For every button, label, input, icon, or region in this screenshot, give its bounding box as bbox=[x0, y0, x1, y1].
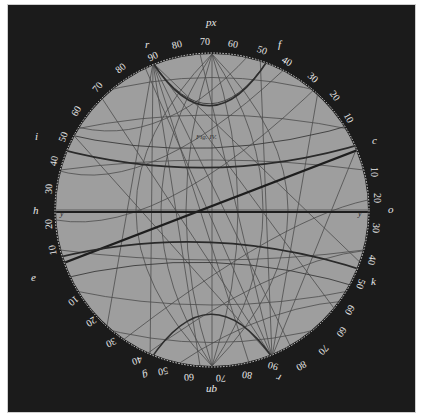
label-r-bottom: r bbox=[274, 372, 283, 385]
svg-text:60: 60 bbox=[69, 104, 84, 118]
svg-text:10: 10 bbox=[369, 167, 380, 177]
svg-text:50: 50 bbox=[157, 365, 169, 378]
svg-text:70: 70 bbox=[200, 36, 210, 47]
svg-text:70: 70 bbox=[90, 80, 105, 95]
label-qn: qn bbox=[206, 385, 218, 397]
svg-text:80: 80 bbox=[113, 61, 128, 76]
svg-text:10: 10 bbox=[342, 111, 356, 125]
label-h: h bbox=[33, 204, 39, 216]
label-c: c bbox=[372, 134, 377, 146]
svg-text:30: 30 bbox=[43, 184, 54, 194]
figure-title: Fig. IV. bbox=[195, 133, 217, 141]
label-k: k bbox=[371, 275, 377, 287]
svg-text:80: 80 bbox=[171, 38, 183, 51]
svg-text:60: 60 bbox=[184, 372, 195, 384]
label-g: g bbox=[140, 369, 150, 382]
svg-text:40: 40 bbox=[131, 354, 144, 368]
svg-text:20: 20 bbox=[328, 88, 343, 103]
svg-text:30: 30 bbox=[306, 70, 321, 85]
label-r-top: r bbox=[145, 38, 150, 50]
label-px: px bbox=[205, 16, 217, 28]
label-f: f bbox=[278, 38, 283, 50]
label-i: i bbox=[35, 130, 38, 142]
svg-text:50: 50 bbox=[56, 130, 70, 143]
label-o: o bbox=[388, 203, 394, 215]
stereographic-net: Fig. IV. px r f i h e c o k qn g r y y 9… bbox=[0, 0, 422, 418]
svg-text:90: 90 bbox=[146, 49, 160, 63]
label-y-right: y bbox=[357, 209, 362, 218]
svg-text:50: 50 bbox=[256, 43, 269, 57]
svg-text:80: 80 bbox=[241, 369, 252, 381]
svg-text:10: 10 bbox=[46, 244, 59, 256]
svg-text:20: 20 bbox=[42, 219, 54, 230]
svg-text:90: 90 bbox=[267, 360, 280, 373]
svg-text:80: 80 bbox=[294, 359, 308, 374]
label-e: e bbox=[31, 271, 36, 283]
svg-text:40: 40 bbox=[366, 254, 379, 266]
svg-text:40: 40 bbox=[47, 155, 60, 167]
svg-text:60: 60 bbox=[334, 325, 349, 340]
label-y-left: y bbox=[59, 209, 64, 218]
svg-text:60: 60 bbox=[227, 37, 239, 50]
svg-text:40: 40 bbox=[280, 54, 294, 69]
svg-text:50: 50 bbox=[354, 278, 368, 291]
svg-text:60: 60 bbox=[343, 303, 358, 317]
svg-text:70: 70 bbox=[216, 373, 226, 384]
svg-text:20: 20 bbox=[372, 193, 383, 203]
svg-text:10: 10 bbox=[66, 294, 81, 309]
svg-text:70: 70 bbox=[316, 343, 331, 358]
svg-text:30: 30 bbox=[104, 336, 118, 350]
svg-text:30: 30 bbox=[370, 223, 382, 234]
